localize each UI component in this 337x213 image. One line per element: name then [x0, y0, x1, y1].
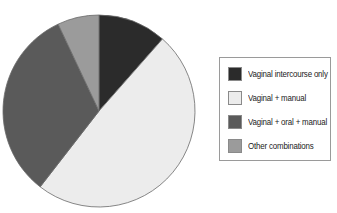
legend-swatch [228, 67, 242, 81]
legend-item-vaginal-oral-manual: Vaginal + oral + manual [228, 114, 337, 130]
legend-label: Vaginal intercourse only [248, 69, 328, 79]
legend-swatch [228, 139, 242, 153]
legend-swatch [228, 91, 242, 105]
legend-label: Other combinations [248, 141, 314, 151]
pie-chart [0, 0, 200, 213]
legend-item-other: Other combinations [228, 138, 322, 154]
legend-item-vaginal-manual: Vaginal + manual [228, 90, 314, 106]
legend-item-vaginal-only: Vaginal intercourse only [228, 66, 337, 82]
chart-legend: Vaginal intercourse only Vaginal + manua… [219, 57, 331, 161]
legend-label: Vaginal + oral + manual [248, 117, 327, 127]
legend-swatch [228, 115, 242, 129]
legend-label: Vaginal + manual [248, 93, 306, 103]
